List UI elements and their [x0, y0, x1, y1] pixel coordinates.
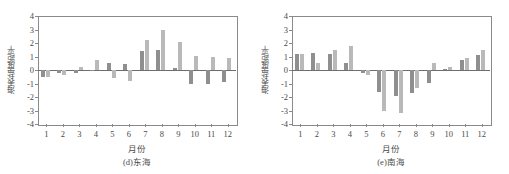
x-tick-label: 2 — [61, 129, 65, 139]
x-tick-mark — [300, 124, 301, 127]
bar — [382, 70, 386, 111]
y-tick-mark — [35, 30, 38, 31]
bar — [62, 70, 66, 75]
x-tick-label: 8 — [414, 129, 418, 139]
x-tick-label: 7 — [397, 129, 401, 139]
x-tick-label: 6 — [381, 129, 385, 139]
y-tick-mark — [289, 124, 292, 125]
x-tick-label: 5 — [110, 129, 114, 139]
x-tick-label: 7 — [143, 129, 147, 139]
x-tick-mark — [46, 124, 47, 127]
x-tick-mark — [432, 124, 433, 127]
y-tick-label: -1 — [14, 79, 34, 89]
bar — [46, 70, 50, 77]
plot-area — [292, 16, 492, 126]
x-tick-label: 6 — [127, 129, 131, 139]
x-tick-mark — [366, 124, 367, 127]
x-tick-label: 3 — [77, 129, 81, 139]
bar — [349, 46, 353, 70]
x-tick-label: 5 — [364, 129, 368, 139]
y-tick-label: 0 — [14, 65, 34, 75]
y-tick-mark — [289, 57, 292, 58]
bar — [128, 70, 132, 81]
bar — [90, 70, 94, 71]
bar — [173, 68, 177, 70]
y-tick-label: -2 — [268, 92, 288, 102]
x-tick-mark — [96, 124, 97, 127]
bar — [189, 70, 193, 84]
x-tick-mark — [482, 124, 483, 127]
x-tick-mark — [383, 124, 384, 127]
bar — [145, 40, 149, 70]
x-tick-label: 2 — [315, 129, 319, 139]
bar — [140, 51, 144, 70]
x-tick-label: 11 — [207, 129, 215, 139]
x-tick-label: 10 — [445, 129, 454, 139]
y-tick-mark — [289, 111, 292, 112]
bar — [300, 54, 304, 70]
y-tick-mark — [35, 16, 38, 17]
bar — [211, 57, 215, 70]
bar — [178, 42, 182, 70]
y-tick-mark — [35, 97, 38, 98]
y-tick-mark — [289, 84, 292, 85]
y-tick-label: 4 — [14, 11, 34, 21]
y-tick-label: 1 — [14, 52, 34, 62]
bar — [95, 60, 99, 70]
bar — [123, 64, 127, 70]
x-tick-label: 9 — [430, 129, 434, 139]
x-tick-mark — [399, 124, 400, 127]
bar — [328, 54, 332, 70]
x-tick-mark — [228, 124, 229, 127]
bar — [366, 70, 370, 75]
zero-line — [292, 70, 490, 71]
panel-caption: (d)东海 — [38, 155, 236, 167]
y-tick-label: -1 — [268, 79, 288, 89]
bar — [448, 67, 452, 70]
x-tick-mark — [145, 124, 146, 127]
bar — [194, 56, 198, 70]
y-tick-mark — [35, 124, 38, 125]
y-tick-label: 3 — [14, 25, 34, 35]
y-tick-mark — [289, 97, 292, 98]
bar — [227, 58, 231, 70]
x-tick-label: 3 — [331, 129, 335, 139]
y-tick-mark — [289, 43, 292, 44]
x-tick-mark — [465, 124, 466, 127]
chart-panel-e: 海表盐度距平43210-1-2-3-4123456789101112月份(e)南… — [254, 0, 508, 174]
x-tick-label: 4 — [348, 129, 352, 139]
bar — [427, 70, 431, 83]
bar — [476, 55, 480, 70]
bar — [161, 30, 165, 70]
y-tick-label: -4 — [268, 119, 288, 129]
bar — [41, 70, 45, 77]
bar — [377, 70, 381, 92]
y-tick-label: 1 — [268, 52, 288, 62]
y-tick-label: 2 — [268, 38, 288, 48]
y-tick-label: -3 — [14, 106, 34, 116]
bar — [57, 70, 61, 73]
bar — [432, 63, 436, 70]
x-tick-label: 12 — [478, 129, 487, 139]
y-tick-mark — [289, 30, 292, 31]
y-tick-mark — [35, 43, 38, 44]
bar — [394, 70, 398, 96]
x-tick-mark — [211, 124, 212, 127]
x-tick-label: 10 — [191, 129, 200, 139]
chart-panel-d: 海表盐度距平43210-1-2-3-4123456789101112月份(d)东… — [0, 0, 254, 174]
bar — [112, 70, 116, 78]
bar — [156, 50, 160, 70]
y-tick-label: 4 — [268, 11, 288, 21]
x-tick-mark — [195, 124, 196, 127]
bar — [465, 58, 469, 70]
x-tick-mark — [317, 124, 318, 127]
panel-caption: (e)南海 — [292, 155, 490, 167]
x-tick-label: 1 — [44, 129, 48, 139]
bar — [311, 53, 315, 70]
y-tick-mark — [289, 16, 292, 17]
x-tick-mark — [63, 124, 64, 127]
y-tick-label: 2 — [14, 38, 34, 48]
x-tick-mark — [79, 124, 80, 127]
bar — [481, 50, 485, 70]
x-axis-title: 月份 — [292, 142, 490, 154]
